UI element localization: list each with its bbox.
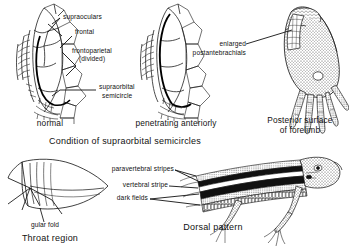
label-postantebrachials: postantebrachials <box>146 50 246 57</box>
label-semicircle: semicircle <box>102 93 132 100</box>
label-enlarged: enlarged <box>166 41 246 48</box>
label-frontoparietal-divided: (divided) <box>79 56 105 63</box>
head-normal-drawing <box>17 4 87 124</box>
caption-posterior-surface: Posterior surface <box>254 116 346 125</box>
caption-penetrating-anteriorly: penetrating anteriorly <box>116 119 236 128</box>
label-dark-fields: dark fields <box>86 195 148 202</box>
label-gular-fold: gular fold <box>18 222 72 229</box>
throat-leader <box>40 208 44 222</box>
label-supraorbital: supraorbital <box>99 84 135 91</box>
label-frontal: frontal <box>75 29 94 36</box>
caption-throat-region: Throat region <box>4 234 96 243</box>
caption-normal: normal <box>10 119 90 128</box>
caption-dorsal-pattern: Dorsal pattern <box>158 223 268 232</box>
head-penetrating-drawing <box>141 4 211 124</box>
label-frontoparietal: frontoparietal <box>72 48 112 55</box>
caption-of-forelimb: of forelimb <box>254 126 346 135</box>
dorsal-lizard-drawing <box>180 157 342 246</box>
label-paravertebral-stripes: paravertebral stripes <box>70 166 174 173</box>
caption-condition-of-supraorbital-semicircles: Condition of supraorbital semicircles <box>20 137 230 146</box>
label-vertebral-stripe: vertebral stripe <box>80 182 168 189</box>
label-supraoculars: supraoculars <box>63 14 102 21</box>
